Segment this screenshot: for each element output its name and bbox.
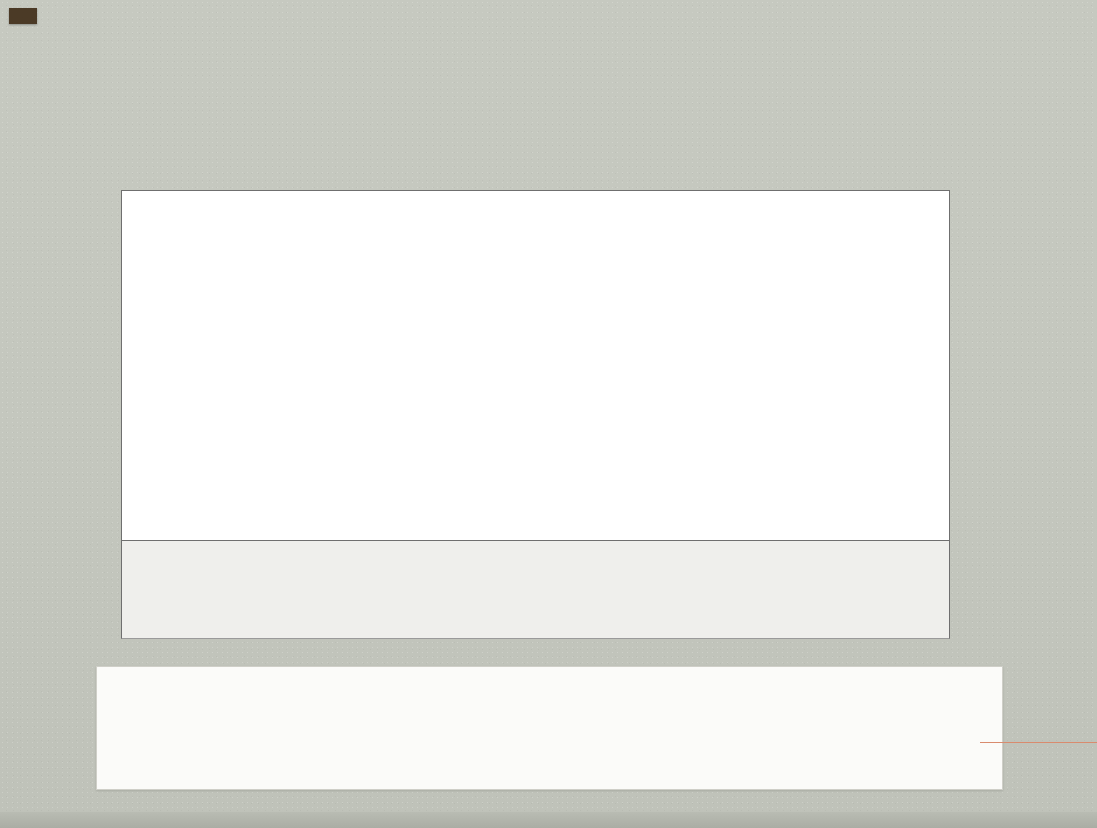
page-bottom-edge	[0, 812, 1097, 828]
page-hairline	[980, 742, 1097, 743]
plot-area	[121, 190, 950, 541]
legend	[96, 666, 1003, 790]
chart-page	[0, 0, 1097, 828]
x-axis-label-band	[121, 541, 950, 639]
